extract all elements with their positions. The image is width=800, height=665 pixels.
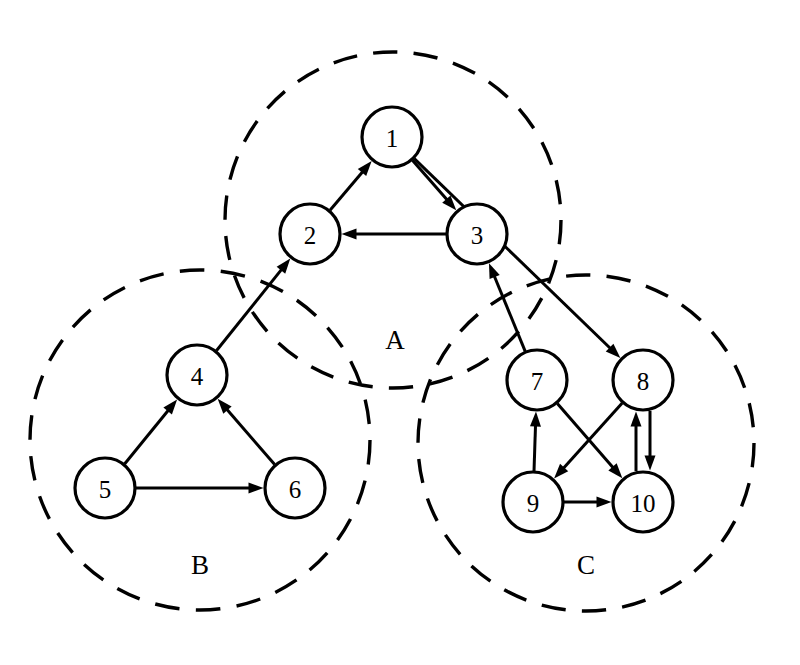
- node-layer: 12345678910: [75, 107, 673, 532]
- arrowhead: [597, 497, 612, 508]
- node-label-5: 5: [99, 476, 112, 503]
- arrowhead: [342, 229, 357, 240]
- edge-3-to-2: [342, 229, 447, 240]
- node-label-4: 4: [191, 363, 204, 390]
- graph-node-6[interactable]: 6: [265, 458, 325, 518]
- edge-9-to-10: [564, 497, 612, 508]
- edge-shaft: [216, 268, 282, 351]
- node-label-8: 8: [637, 368, 650, 395]
- cluster-label-B: B: [191, 550, 209, 580]
- arrowhead: [645, 456, 656, 471]
- edge-6-to-4: [218, 399, 275, 465]
- edge-shaft: [330, 170, 364, 210]
- graph-canvas: 12345678910 ABC: [0, 0, 800, 665]
- node-label-2: 2: [304, 222, 317, 249]
- graph-node-1[interactable]: 1: [362, 107, 422, 167]
- arrowhead: [489, 263, 500, 279]
- cluster-label-A: A: [385, 325, 405, 355]
- graph-diagram: 12345678910 ABC: [0, 0, 800, 665]
- edge-5-to-6: [136, 483, 264, 494]
- edge-shaft: [557, 403, 614, 469]
- edge-shaft: [534, 424, 536, 471]
- node-label-1: 1: [386, 125, 399, 152]
- graph-node-3[interactable]: 3: [447, 204, 507, 264]
- edge-shaft: [412, 160, 448, 201]
- graph-node-4[interactable]: 4: [167, 345, 227, 405]
- node-label-10: 10: [631, 490, 656, 517]
- graph-node-8[interactable]: 8: [613, 350, 673, 410]
- edge-shaft: [125, 409, 170, 464]
- edge-shaft: [226, 408, 275, 464]
- edge-10-to-8: [631, 412, 642, 472]
- edge-7-to-3: [489, 263, 525, 351]
- edge-1-to-3: [412, 160, 456, 210]
- graph-node-7[interactable]: 7: [507, 350, 567, 410]
- edge-8-to-10: [645, 411, 656, 471]
- edge-9-to-7: [530, 411, 541, 471]
- cluster-label-C: C: [577, 550, 595, 580]
- graph-node-2[interactable]: 2: [280, 204, 340, 264]
- node-label-6: 6: [289, 476, 302, 503]
- arrowhead: [530, 411, 541, 426]
- arrowhead: [249, 483, 264, 494]
- node-label-7: 7: [531, 368, 544, 395]
- edge-1-to-8: [414, 159, 620, 359]
- node-label-9: 9: [527, 490, 540, 517]
- edge-5-to-4: [125, 399, 178, 464]
- node-label-3: 3: [471, 222, 484, 249]
- graph-node-5[interactable]: 5: [75, 458, 135, 518]
- edge-2-to-1: [330, 161, 372, 210]
- edge-shaft: [562, 403, 622, 469]
- graph-node-9[interactable]: 9: [503, 472, 563, 532]
- arrowhead: [631, 412, 642, 427]
- graph-node-10[interactable]: 10: [613, 472, 673, 532]
